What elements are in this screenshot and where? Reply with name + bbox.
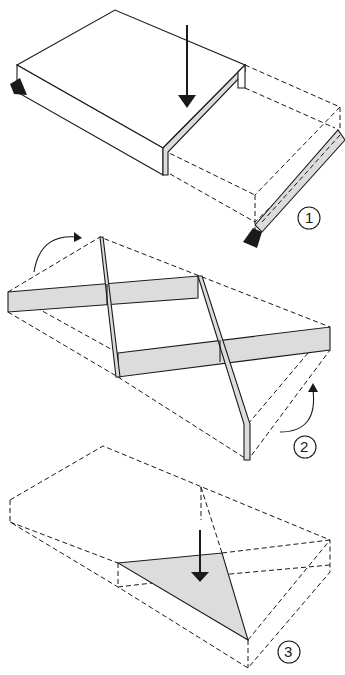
step-number-2: 2 [300,438,308,455]
step-2: 2 [8,232,330,460]
folding-diagram: 1 2 [0,0,345,675]
step-number-3: 3 [284,643,292,660]
step-number-1: 1 [305,209,313,226]
step-1: 1 [10,10,345,248]
step-3: 3 [10,446,330,668]
